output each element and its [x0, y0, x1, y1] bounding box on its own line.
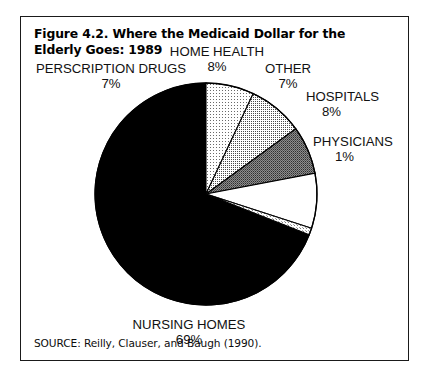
slice-label-hospitals: HOSPITALS 8% — [306, 89, 410, 119]
slice-label-physicians: PHYSICIANS 1% — [313, 134, 413, 164]
source-note: SOURCE: Reilly, Clauser, and Baugh (1990… — [34, 337, 262, 350]
slice-label-name: OTHER — [251, 61, 325, 76]
slice-label-name: HOME HEALTH — [161, 44, 273, 59]
slice-label-value: 1% — [313, 149, 413, 164]
slice-label-name: NURSING HOMES — [99, 317, 279, 332]
figure-frame: Figure 4.2. Where the Medicaid Dollar fo… — [20, 16, 409, 361]
slice-label-value: 7% — [27, 76, 195, 91]
slice-label-other: OTHER 7% — [251, 61, 325, 91]
pie-chart-svg — [81, 69, 331, 319]
slice-label-value: 8% — [306, 104, 410, 119]
slice-label-name: PHYSICIANS — [313, 134, 413, 149]
slice-label-name: HOSPITALS — [306, 89, 410, 104]
pie-chart-area: PERSCRIPTION DRUGS 7% HOME HEALTH 8% OTH… — [21, 17, 410, 362]
